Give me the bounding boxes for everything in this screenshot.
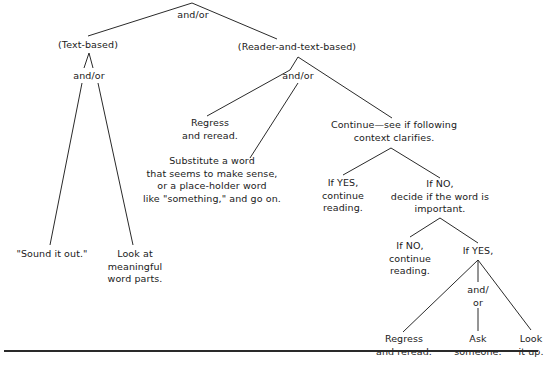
node-sound-it-out: "Sound it out." bbox=[16, 248, 87, 261]
strategy-tree-diagram: and/or (Text-based) and/or "Sound it out… bbox=[0, 0, 556, 374]
continue-line-1: Continue—see if following bbox=[331, 119, 457, 132]
root-connector-label: and/or bbox=[177, 9, 208, 22]
word-parts-line-1: Look at bbox=[108, 248, 163, 261]
node-no-continue: If NO, continue reading. bbox=[389, 240, 431, 278]
edge-textbased-wordparts bbox=[98, 83, 133, 245]
final-connector-line-1: and/ bbox=[467, 284, 488, 297]
edge-continue-yes bbox=[343, 148, 391, 175]
yes-continue-line-2: continue bbox=[322, 190, 364, 203]
edge-textbased-caret-left bbox=[84, 53, 89, 68]
regress-1-line-1: Regress bbox=[182, 117, 238, 130]
substitute-line-2: that seems to make sense, bbox=[143, 168, 281, 181]
word-parts-line-3: word parts. bbox=[108, 273, 163, 286]
regress-1-line-2: and reread. bbox=[182, 130, 238, 143]
node-word-parts: Look at meaningful word parts. bbox=[108, 248, 163, 286]
node-continue: Continue—see if following context clarif… bbox=[331, 119, 457, 144]
reader-text-connector-label: and/or bbox=[282, 70, 313, 83]
node-text-based: (Text-based) bbox=[58, 39, 118, 52]
text-based-label: (Text-based) bbox=[58, 39, 118, 52]
no-continue-line-1: If NO, bbox=[389, 240, 431, 253]
edge-readertext-continue bbox=[298, 57, 392, 118]
edge-readertext-left bbox=[290, 57, 298, 70]
no-continue-line-3: reading. bbox=[389, 265, 431, 278]
node-regress-1: Regress and reread. bbox=[182, 117, 238, 142]
edge-continue-no bbox=[391, 148, 440, 178]
edge-textbased-soundout bbox=[50, 83, 82, 245]
yes-continue-line-1: If YES, bbox=[322, 177, 364, 190]
text-based-connector-label: and/or bbox=[73, 70, 104, 83]
node-substitute: Substitute a word that seems to make sen… bbox=[143, 155, 281, 205]
node-reader-text-based: (Reader-and-text-based) bbox=[238, 41, 356, 54]
sound-it-out-label: "Sound it out." bbox=[16, 248, 87, 261]
reader-text-based-label: (Reader-and-text-based) bbox=[238, 41, 356, 54]
node-yes-continue: If YES, continue reading. bbox=[322, 177, 364, 215]
no-decide-line-2: decide if the word is bbox=[391, 191, 489, 204]
node-yes-important: If YES, bbox=[463, 245, 494, 258]
edge-readertext-regress bbox=[207, 70, 290, 116]
yes-continue-line-3: reading. bbox=[322, 202, 364, 215]
root-connector: and/or bbox=[177, 9, 208, 22]
edge-readertext-substitute bbox=[250, 83, 298, 158]
regress-2-line-1: Regress bbox=[376, 333, 432, 346]
look-up-line-1: Look bbox=[518, 333, 543, 346]
edge-important-yes bbox=[440, 218, 478, 243]
node-regress-2: Regress and reread. bbox=[376, 333, 432, 358]
no-continue-line-2: continue bbox=[389, 253, 431, 266]
node-look-up: Look it up. bbox=[518, 333, 543, 358]
bottom-rule-divider bbox=[4, 350, 538, 352]
final-connector-line-2: or bbox=[467, 297, 488, 310]
node-no-decide: If NO, decide if the word is important. bbox=[391, 178, 489, 216]
edge-important-no bbox=[410, 218, 440, 237]
continue-line-2: context clarifies. bbox=[331, 132, 457, 145]
substitute-line-1: Substitute a word bbox=[143, 155, 281, 168]
no-decide-line-3: important. bbox=[391, 203, 489, 216]
final-connector: and/ or bbox=[467, 284, 488, 309]
substitute-line-4: like "something," and go on. bbox=[143, 193, 281, 206]
edge-textbased-caret-right bbox=[89, 53, 93, 68]
text-based-connector: and/or bbox=[73, 70, 104, 83]
no-decide-line-1: If NO, bbox=[391, 178, 489, 191]
ask-line-1: Ask bbox=[454, 333, 501, 346]
node-ask: Ask someone. bbox=[454, 333, 501, 358]
yes-important-label: If YES, bbox=[463, 245, 494, 258]
substitute-line-3: or a place-holder word bbox=[143, 180, 281, 193]
word-parts-line-2: meaningful bbox=[108, 261, 163, 274]
reader-text-connector: and/or bbox=[282, 70, 313, 83]
